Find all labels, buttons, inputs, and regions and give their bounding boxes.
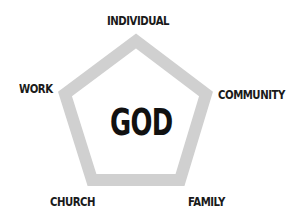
center-label: GOD — [110, 103, 173, 141]
node-church: CHURCH — [50, 195, 95, 208]
node-work: WORK — [19, 82, 53, 95]
node-community: COMMUNITY — [218, 88, 285, 101]
node-family: FAMILY — [188, 195, 225, 208]
node-individual: INDIVIDUAL — [107, 14, 169, 27]
pentagon-diagram: INDIVIDUAL COMMUNITY FAMILY CHURCH WORK … — [0, 0, 301, 224]
